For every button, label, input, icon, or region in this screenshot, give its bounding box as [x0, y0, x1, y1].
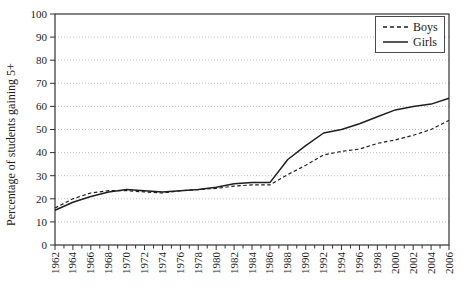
x-tick-label: 1980	[210, 252, 222, 275]
y-tick-label: 10	[36, 216, 48, 228]
y-tick-label: 40	[36, 146, 48, 158]
x-tick-label: 1962	[49, 252, 61, 274]
y-tick-label: 60	[36, 100, 48, 112]
y-axis-label: Percentage of students gaining 5+	[4, 45, 19, 245]
x-tick-label: 1972	[138, 252, 150, 274]
x-tick-label: 1990	[299, 252, 311, 275]
y-tick-label: 0	[42, 239, 48, 251]
x-tick-label: 1984	[246, 252, 258, 275]
y-tick-label: 90	[36, 31, 48, 43]
y-tick-label: 70	[36, 77, 48, 89]
series-line-girls	[55, 98, 449, 210]
y-tick-label: 80	[36, 54, 48, 66]
x-tick-label: 1996	[353, 252, 365, 275]
x-tick-label: 1976	[174, 252, 186, 275]
x-tick-label: 1970	[120, 252, 132, 275]
y-tick-label: 50	[36, 123, 48, 135]
x-tick-label: 2006	[443, 252, 455, 275]
chart-legend: Boys Girls	[375, 16, 445, 53]
x-tick-label: 1968	[102, 252, 114, 275]
x-tick-label: 1986	[263, 252, 275, 275]
x-tick-label: 1994	[335, 252, 347, 275]
x-tick-label: 1988	[281, 252, 293, 275]
x-tick-label: 2002	[407, 252, 419, 274]
y-tick-label: 100	[31, 8, 48, 20]
x-tick-label: 1974	[156, 252, 168, 275]
x-tick-label: 1964	[66, 252, 78, 275]
legend-item-girls: Girls	[382, 36, 444, 48]
x-tick-label: 1998	[371, 252, 383, 275]
series-line-boys	[55, 120, 449, 208]
x-tick-label: 2004	[425, 252, 437, 275]
legend-item-boys: Boys	[382, 21, 444, 33]
y-tick-label: 30	[36, 170, 48, 182]
legend-label-boys: Boys	[413, 21, 438, 33]
x-tick-label: 1982	[228, 252, 240, 274]
boys-dashed-line-sample	[382, 23, 409, 31]
chart-figure: 0102030405060708090100196219641966196819…	[0, 0, 463, 289]
x-tick-label: 1992	[317, 252, 329, 274]
x-tick-label: 2000	[389, 252, 401, 275]
x-tick-label: 1978	[192, 252, 204, 275]
legend-label-girls: Girls	[413, 36, 437, 48]
girls-solid-line-sample	[382, 38, 409, 46]
y-tick-label: 20	[36, 193, 48, 205]
x-tick-label: 1966	[84, 252, 96, 275]
